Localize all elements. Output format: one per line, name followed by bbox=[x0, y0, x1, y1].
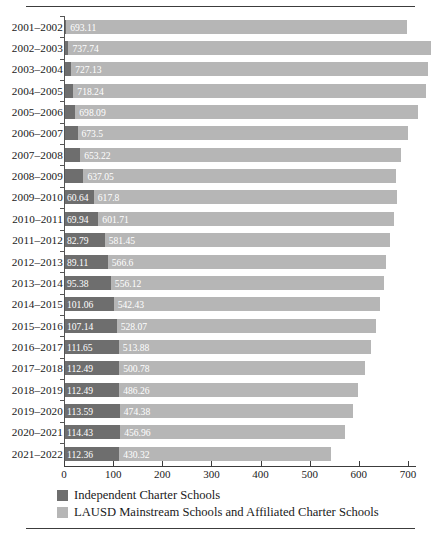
y-axis-tick-label: 2020–2021 bbox=[0, 426, 63, 438]
bar-segment-lausd-mainstream: 698.09 bbox=[75, 105, 418, 119]
y-axis-tick-label: 2015–2016 bbox=[0, 320, 63, 332]
x-axis-line bbox=[64, 466, 416, 467]
bar-value-label: 698.09 bbox=[79, 107, 105, 118]
chart-row: 2018–2019112.49486.26 bbox=[0, 379, 441, 400]
y-axis-tick-label: 2021–2022 bbox=[0, 448, 63, 460]
x-axis-tick-label: 200 bbox=[154, 468, 171, 480]
bar-segment-lausd-mainstream: 718.24 bbox=[73, 84, 426, 98]
chart-row: 2006–2007673.5 bbox=[0, 123, 441, 144]
x-axis-tick-label: 300 bbox=[203, 468, 220, 480]
bar-value-label: 89.11 bbox=[67, 256, 88, 267]
chart-row: 2008–2009637.05 bbox=[0, 165, 441, 186]
bar-segment-independent-charter: 114.43 bbox=[64, 425, 120, 439]
bar-segment-lausd-mainstream: 737.74 bbox=[68, 41, 431, 55]
bar-segment-independent-charter bbox=[64, 62, 71, 76]
bar-segment-independent-charter: 82.79 bbox=[64, 233, 105, 247]
bar-value-label: 82.79 bbox=[67, 235, 89, 246]
y-axis-spine bbox=[64, 16, 65, 466]
bar-value-label: 653.22 bbox=[84, 149, 110, 160]
bar-segment-independent-charter bbox=[64, 84, 73, 98]
stacked-bar-chart-figure: 2001–2002693.112002–2003737.742003–20047… bbox=[0, 0, 441, 538]
bar-segment-independent-charter: 111.65 bbox=[64, 340, 119, 354]
bar-segment-independent-charter: 113.59 bbox=[64, 404, 120, 418]
legend-item[interactable]: Independent Charter Schools bbox=[57, 487, 441, 504]
bar-segment-independent-charter: 107.14 bbox=[64, 319, 117, 333]
bar-segment-independent-charter: 89.11 bbox=[64, 255, 108, 269]
legend-swatch-icon bbox=[57, 490, 68, 501]
bar-value-label: 528.07 bbox=[121, 320, 147, 331]
chart-row: 2007–2008653.22 bbox=[0, 144, 441, 165]
bar-segment-lausd-mainstream: 673.5 bbox=[78, 126, 409, 140]
bar-segment-lausd-mainstream: 727.13 bbox=[71, 62, 428, 76]
bar-segment-lausd-mainstream: 617.8 bbox=[94, 190, 398, 204]
bar-value-label: 581.45 bbox=[109, 235, 135, 246]
bar-value-label: 111.65 bbox=[67, 341, 93, 352]
bar-value-label: 69.94 bbox=[67, 213, 89, 224]
bar-value-label: 95.38 bbox=[67, 277, 89, 288]
x-axis-tick-label: 700 bbox=[400, 468, 417, 480]
bar-segment-independent-charter: 95.38 bbox=[64, 276, 111, 290]
bar-segment-lausd-mainstream: 556.12 bbox=[111, 276, 384, 290]
bar-value-label: 113.59 bbox=[67, 405, 93, 416]
chart-row: 2015–2016107.14528.07 bbox=[0, 315, 441, 336]
chart-legend: Independent Charter SchoolsLAUSD Mainstr… bbox=[57, 487, 441, 521]
bar-value-label: 727.13 bbox=[75, 64, 101, 75]
bar-value-label: 112.49 bbox=[67, 363, 93, 374]
plot-area: 2001–2002693.112002–2003737.742003–20047… bbox=[0, 16, 441, 460]
top-divider-rule bbox=[26, 6, 415, 7]
chart-row: 2003–2004727.13 bbox=[0, 59, 441, 80]
chart-row: 2011–201282.79581.45 bbox=[0, 230, 441, 251]
bar-segment-lausd-mainstream: 430.32 bbox=[119, 447, 330, 461]
y-axis-tick-label: 2013–2014 bbox=[0, 277, 63, 289]
chart-row: 2002–2003737.74 bbox=[0, 37, 441, 58]
bar-value-label: 60.64 bbox=[67, 192, 89, 203]
bar-value-label: 101.06 bbox=[67, 299, 93, 310]
bar-value-label: 107.14 bbox=[67, 320, 93, 331]
bar-segment-independent-charter bbox=[64, 105, 75, 119]
bar-value-label: 556.12 bbox=[115, 277, 141, 288]
y-axis-tick-label: 2001–2002 bbox=[0, 21, 63, 33]
bottom-divider-rule bbox=[26, 528, 415, 529]
bar-value-label: 430.32 bbox=[123, 448, 149, 459]
bar-segment-lausd-mainstream: 637.05 bbox=[83, 169, 396, 183]
chart-row: 2017–2018112.49500.78 bbox=[0, 358, 441, 379]
x-axis-tick bbox=[64, 461, 65, 466]
bar-segment-independent-charter: 69.94 bbox=[64, 212, 98, 226]
legend-swatch-icon bbox=[57, 507, 68, 518]
bar-segment-lausd-mainstream: 528.07 bbox=[117, 319, 376, 333]
y-axis-tick-label: 2016–2017 bbox=[0, 341, 63, 353]
y-axis-tick-label: 2002–2003 bbox=[0, 42, 63, 54]
chart-row: 2004–2005718.24 bbox=[0, 80, 441, 101]
chart-row: 2016–2017111.65513.88 bbox=[0, 336, 441, 357]
bar-value-label: 456.96 bbox=[124, 427, 150, 438]
chart-row: 2014–2015101.06542.43 bbox=[0, 294, 441, 315]
y-axis-tick-label: 2007–2008 bbox=[0, 149, 63, 161]
x-axis-tick bbox=[408, 461, 409, 466]
y-axis-tick-label: 2006–2007 bbox=[0, 127, 63, 139]
bar-value-label: 114.43 bbox=[67, 427, 93, 438]
x-axis-tick bbox=[359, 461, 360, 466]
y-axis-tick-label: 2017–2018 bbox=[0, 362, 63, 374]
legend-item[interactable]: LAUSD Mainstream Schools and Affiliated … bbox=[57, 504, 441, 521]
y-axis-tick-label: 2009–2010 bbox=[0, 191, 63, 203]
bar-segment-independent-charter: 60.64 bbox=[64, 190, 94, 204]
bar-segment-independent-charter: 112.36 bbox=[64, 447, 119, 461]
bar-segment-lausd-mainstream: 542.43 bbox=[114, 297, 381, 311]
chart-row: 2005–2006698.09 bbox=[0, 101, 441, 122]
x-axis: 0100200300400500600700 bbox=[0, 460, 441, 484]
bar-segment-lausd-mainstream: 566.6 bbox=[108, 255, 386, 269]
x-axis-tick-label: 600 bbox=[351, 468, 368, 480]
y-axis-tick-label: 2003–2004 bbox=[0, 63, 63, 75]
x-axis-tick-label: 500 bbox=[301, 468, 318, 480]
chart-row: 2009–201060.64617.8 bbox=[0, 187, 441, 208]
bar-value-label: 693.11 bbox=[70, 21, 96, 32]
bar-segment-independent-charter bbox=[64, 126, 78, 140]
bar-value-label: 513.88 bbox=[123, 341, 149, 352]
chart-row: 2020–2021114.43456.96 bbox=[0, 422, 441, 443]
y-axis-tick-label: 2014–2015 bbox=[0, 298, 63, 310]
y-axis-tick-label: 2008–2009 bbox=[0, 170, 63, 182]
bar-value-label: 617.8 bbox=[98, 192, 120, 203]
chart-row: 2013–201495.38556.12 bbox=[0, 272, 441, 293]
x-axis-tick-label: 400 bbox=[252, 468, 269, 480]
bar-segment-lausd-mainstream: 486.26 bbox=[119, 383, 358, 397]
